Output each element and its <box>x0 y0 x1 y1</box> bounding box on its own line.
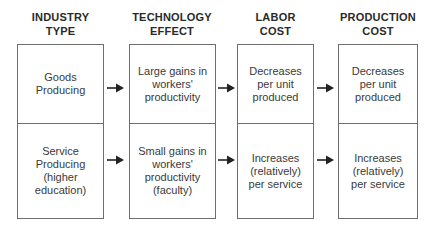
arrow-right-icon <box>218 83 235 93</box>
arrow-right-icon <box>107 83 124 93</box>
cell-small-gains: Small gains in workers' productivity (fa… <box>130 124 215 218</box>
cell-labor-decreases: Decreases per unit produced <box>238 45 313 124</box>
column-production-cost: Decreases per unit produced Increases (r… <box>338 44 418 219</box>
header-line: TYPE <box>17 24 104 38</box>
cell-service-producing: Service Producing (higher education) <box>18 124 103 218</box>
header-technology-effect: TECHNOLOGY EFFECT <box>124 10 220 38</box>
header-line: INDUSTRY <box>17 10 104 24</box>
header-line: COST <box>330 24 426 38</box>
arrow-right-icon <box>317 155 334 165</box>
column-technology-effect: Large gains in workers' productivity Sma… <box>129 44 216 219</box>
header-production-cost: PRODUCTION COST <box>330 10 426 38</box>
cell-production-increases: Increases (relatively) per service <box>339 124 417 218</box>
header-line: PRODUCTION <box>330 10 426 24</box>
header-line: TECHNOLOGY <box>124 10 220 24</box>
header-line: COST <box>237 24 314 38</box>
column-industry-type: Goods Producing Service Producing (highe… <box>17 44 104 219</box>
cell-goods-producing: Goods Producing <box>18 45 103 124</box>
header-labor-cost: LABOR COST <box>237 10 314 38</box>
column-labor-cost: Decreases per unit produced Increases (r… <box>237 44 314 219</box>
cell-production-decreases: Decreases per unit produced <box>339 45 417 124</box>
cell-large-gains: Large gains in workers' productivity <box>130 45 215 124</box>
header-line: LABOR <box>237 10 314 24</box>
cell-labor-increases: Increases (relatively) per service <box>238 124 313 218</box>
arrow-right-icon <box>218 155 235 165</box>
header-industry-type: INDUSTRY TYPE <box>17 10 104 38</box>
arrow-right-icon <box>107 155 124 165</box>
header-line: EFFECT <box>124 24 220 38</box>
arrow-right-icon <box>317 83 334 93</box>
